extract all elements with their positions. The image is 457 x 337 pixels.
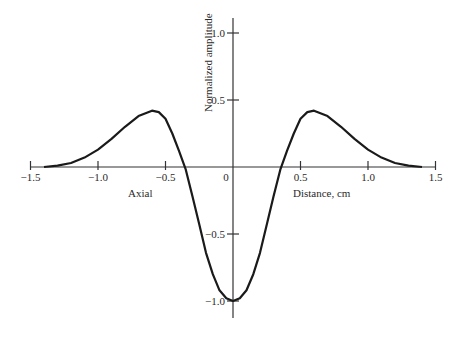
y-axis-label: Normalized amplitude xyxy=(202,13,214,112)
x-tick-label: 0.5 xyxy=(294,171,308,183)
y-tick-label: −0.5 xyxy=(205,228,225,240)
y-tick-label: −1.0 xyxy=(205,295,225,307)
x-tick-label: −1.0 xyxy=(88,171,108,183)
x-tick-label: −0.5 xyxy=(156,171,176,183)
axial-annotation: Axial xyxy=(128,187,152,199)
x-tick-label: 1.5 xyxy=(429,171,443,183)
axes xyxy=(31,18,436,318)
x-tick-label: −1.5 xyxy=(21,171,41,183)
chart: −1.5−1.0−0.500.51.01.51.00.5−0.5−1.0 Dis… xyxy=(0,0,457,337)
x-tick-label: 0 xyxy=(223,171,229,183)
x-tick-label: 1.0 xyxy=(361,171,375,183)
x-axis-label: Distance, cm xyxy=(293,187,351,199)
